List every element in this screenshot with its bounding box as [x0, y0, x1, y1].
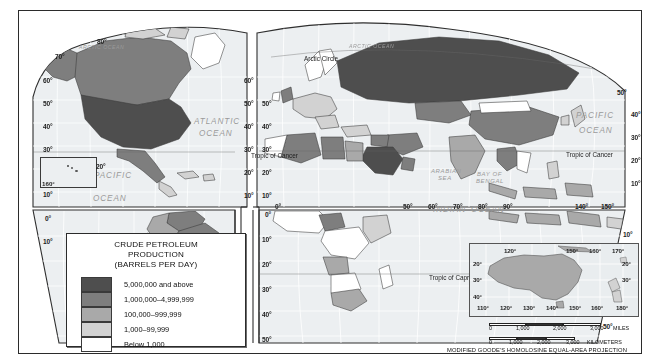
legend-label: 5,000,000 and above	[124, 280, 193, 289]
scale-tick-km: 2,000	[537, 339, 551, 345]
map-screenshot: ARCTIC OCEANARCTIC OCEANATLANTICOCEANPAC…	[0, 0, 654, 364]
legend-swatch	[81, 307, 112, 322]
hawaii-island-dot	[67, 165, 69, 167]
legend: CRUDE PETROLEUM PRODUCTION (BARRELS PER …	[66, 233, 246, 347]
scale-tick-miles: 0	[489, 325, 492, 331]
legend-label: Below 1,000	[124, 340, 165, 349]
legend-class-list: 5,000,000 and above1,000,000–4,999,99910…	[81, 277, 245, 352]
legend-row: 1,000,000–4,999,999	[81, 292, 245, 307]
scale-tick-miles: 1,000	[516, 325, 530, 331]
scale-unit-miles: MILES	[613, 325, 629, 331]
legend-title: CRUDE PETROLEUM PRODUCTION (BARRELS PER …	[67, 240, 245, 271]
australia-inset-graphic	[470, 244, 638, 316]
hawaii-inset: 160°	[40, 157, 97, 188]
legend-swatch	[81, 322, 112, 337]
legend-swatch	[81, 337, 112, 352]
hawaii-island-dot	[75, 170, 78, 172]
scale-bar-miles-bar	[489, 323, 601, 326]
legend-row: 5,000,000 and above	[81, 277, 245, 292]
scale-bars: 0 1,000 2,000 3,000 MILES 0 1,000 2,000 …	[489, 321, 642, 346]
map-frame: ARCTIC OCEANARCTIC OCEANATLANTICOCEANPAC…	[18, 10, 642, 354]
legend-label: 1,000–99,999	[124, 325, 169, 334]
hawaii-inset-lon-label: 160°	[42, 180, 55, 187]
projection-note: MODIFIED GOODE'S HOMOLOSINE EQUAL-AREA P…	[417, 347, 642, 353]
legend-title-line2: PRODUCTION	[67, 250, 245, 260]
hawaii-island-dot	[71, 167, 73, 169]
legend-row: 100,000–999,999	[81, 307, 245, 322]
scale-unit-km: KILOMETERS	[587, 339, 622, 345]
scale-tick-km: 0	[489, 339, 492, 345]
scale-tick-km: 1,000	[509, 339, 523, 345]
legend-label: 1,000,000–4,999,999	[124, 295, 194, 304]
scale-tick-miles: 3,000	[590, 325, 604, 331]
scale-tick-miles: 2,000	[553, 325, 567, 331]
legend-title-line1: CRUDE PETROLEUM	[67, 240, 245, 250]
legend-swatch	[81, 277, 112, 292]
australia-inset: 120°150°160°170°110°120°130°140°150°160°…	[469, 243, 639, 317]
legend-title-line3: (BARRELS PER DAY)	[67, 260, 245, 270]
scale-tick-km: 3,000	[566, 339, 580, 345]
scale-bar-km-bar	[489, 337, 575, 340]
legend-row: 1,000–99,999	[81, 322, 245, 337]
legend-label: 100,000–999,999	[124, 310, 182, 319]
legend-row: Below 1,000	[81, 337, 245, 352]
scale-bar-kilometers: 0 1,000 2,000 3,000 KILOMETERS	[489, 335, 642, 346]
legend-swatch	[81, 292, 112, 307]
scale-bar-miles: 0 1,000 2,000 3,000 MILES	[489, 321, 642, 332]
